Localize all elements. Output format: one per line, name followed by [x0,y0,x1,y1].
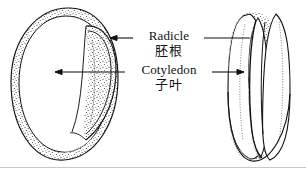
label-cotyledon-chinese: 子叶 [128,78,210,91]
label-radicle: Radicle 胚根 [136,29,202,57]
label-cotyledon-english: Cotyledon [128,63,210,76]
seed-structure-figure: Radicle 胚根 Cotyledon 子叶 [0,0,306,172]
label-radicle-chinese: 胚根 [136,44,202,57]
right-seed-drawing [220,0,306,172]
label-cotyledon: Cotyledon 子叶 [128,63,210,91]
label-radicle-english: Radicle [136,29,202,42]
arrowhead-cotyledon-left [55,69,62,74]
figure-baseline-rule [0,167,306,168]
